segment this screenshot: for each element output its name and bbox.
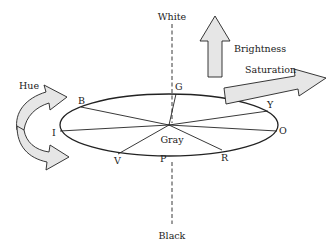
spoke-y bbox=[169, 111, 268, 125]
hue-label-b: B bbox=[78, 95, 85, 106]
hsb-color-diagram: White Black Gray Hue Brightness Saturati… bbox=[0, 0, 331, 251]
hue-arrow-lower bbox=[17, 126, 69, 170]
spoke-i bbox=[60, 125, 169, 131]
hue-label-y: Y bbox=[266, 99, 274, 110]
hue-label-i: I bbox=[52, 127, 56, 138]
hue-label-v: V bbox=[113, 155, 121, 166]
hue-label-r: R bbox=[221, 152, 229, 163]
spoke-b bbox=[81, 107, 169, 125]
hue-label: Hue bbox=[19, 80, 39, 91]
hue-label-g: G bbox=[175, 81, 183, 92]
brightness-arrow bbox=[200, 16, 230, 77]
hue-label-p: P bbox=[160, 153, 167, 164]
hue-label-o: O bbox=[279, 125, 287, 136]
hue-arrow-upper bbox=[17, 85, 67, 130]
spoke-g bbox=[169, 94, 176, 125]
black-label: Black bbox=[159, 230, 186, 241]
spoke-o bbox=[169, 125, 277, 131]
white-label: White bbox=[158, 11, 187, 22]
gray-label: Gray bbox=[160, 134, 184, 145]
saturation-label: Saturation bbox=[245, 64, 296, 75]
brightness-label: Brightness bbox=[234, 43, 286, 54]
